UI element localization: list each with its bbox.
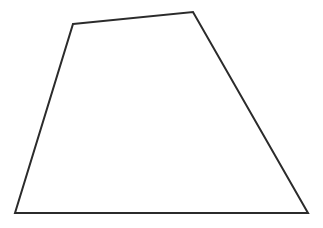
figure-canvas	[0, 0, 323, 228]
line-drawing-svg	[0, 0, 323, 228]
